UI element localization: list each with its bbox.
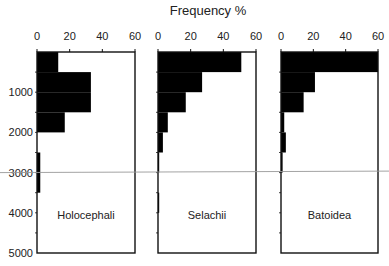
x-tick-label: 20 [64,30,76,42]
y-tick-label: 5000 [9,247,33,259]
y-tick-label: 2000 [9,126,33,138]
histogram-bar [158,132,163,152]
x-tick-label: 60 [250,30,262,42]
y-tick-label: 1000 [9,86,33,98]
x-tick-label: 60 [129,30,141,42]
panel-label-holocephali: Holocephali [57,209,114,221]
x-tick-label: 40 [340,30,352,42]
chart-title: Frequency % [0,3,389,18]
x-tick-label: 60 [372,30,384,42]
histogram-bar [281,92,304,112]
y-tick-label: 4000 [9,207,33,219]
chart-canvas: 0204060Holocephali0204060Selachii0204060… [0,0,389,266]
histogram-bar [281,72,315,92]
depth-frequency-chart: Frequency % 0204060Holocephali0204060Sel… [0,0,389,266]
x-tick-label: 40 [96,30,108,42]
x-tick-label: 0 [34,30,40,42]
panel-label-batoidea: Batoidea [308,209,352,221]
reference-line-3000m [0,171,389,173]
x-tick-label: 0 [278,30,284,42]
histogram-bar [281,132,286,152]
histogram-bar [37,92,91,112]
x-tick-label: 0 [155,30,161,42]
histogram-bar [37,52,58,72]
histogram-bar [37,112,65,132]
histogram-bar [158,92,186,112]
histogram-bar [158,52,241,72]
x-tick-label: 20 [185,30,197,42]
histogram-bar [37,72,91,92]
histogram-bar [158,72,202,92]
histogram-bar [281,52,378,72]
histogram-bar [158,112,168,132]
x-tick-label: 40 [217,30,229,42]
x-tick-label: 20 [307,30,319,42]
panel-label-selachii: Selachii [188,209,227,221]
